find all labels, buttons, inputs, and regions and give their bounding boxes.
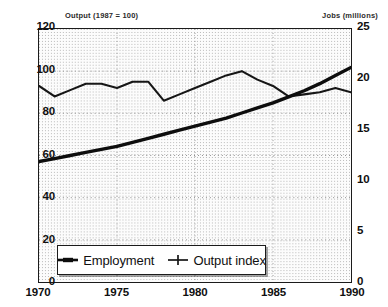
legend-item-output-index: Output index (167, 253, 266, 268)
chart-legend: Employment Output index (57, 245, 266, 275)
left-tick-60: 60 (15, 148, 55, 160)
left-tick-120: 120 (15, 20, 55, 32)
left-tick-100: 100 (15, 63, 55, 75)
right-axis-title: Jobs (millions) (322, 11, 378, 20)
plus-marker-icon (167, 254, 189, 266)
x-tick-1980: 1980 (165, 286, 225, 298)
x-tick-1970: 1970 (8, 286, 68, 298)
left-tick-80: 80 (15, 105, 55, 117)
legend-label-output-index: Output index (193, 253, 266, 268)
dash-marker-icon (57, 254, 79, 266)
right-tick-10: 10 (357, 173, 388, 185)
right-tick-15: 15 (357, 122, 388, 134)
legend-label-employment: Employment (83, 253, 154, 268)
left-tick-20: 20 (15, 233, 55, 245)
x-tick-1990: 1990 (322, 286, 382, 298)
x-tick-1985: 1985 (244, 286, 304, 298)
right-tick-5: 5 (357, 224, 388, 236)
x-tick-1975: 1975 (87, 286, 147, 298)
left-tick-40: 40 (15, 190, 55, 202)
chart-container: Output (1987 = 100) Jobs (millions) 0204… (0, 0, 388, 307)
right-tick-25: 25 (357, 20, 388, 32)
left-axis-title: Output (1987 = 100) (65, 11, 138, 20)
right-tick-20: 20 (357, 71, 388, 83)
legend-item-employment: Employment (57, 253, 154, 268)
